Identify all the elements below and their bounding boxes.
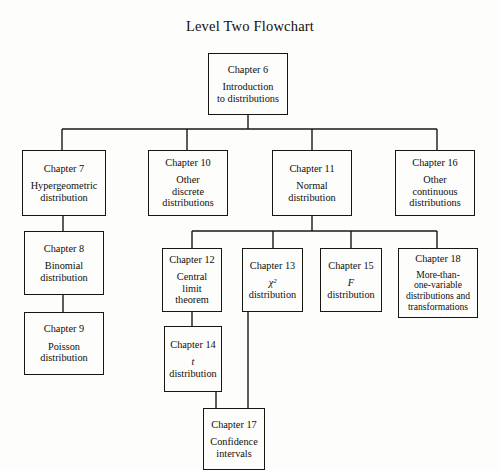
line: distributions — [409, 197, 461, 209]
node-chapter-7-description: Hypergeometric distribution — [31, 180, 98, 203]
line: Other — [162, 174, 214, 186]
line: distribution — [288, 192, 335, 204]
node-chapter-13-description: χ² distribution — [249, 277, 296, 300]
line: distributions — [162, 197, 214, 209]
chi-squared-symbol: χ² — [249, 277, 296, 289]
line: limit — [175, 283, 209, 295]
t-symbol: t — [169, 356, 216, 368]
node-chapter-14-description: t distribution — [169, 356, 216, 379]
node-chapter-10[interactable]: Chapter 10 Other discrete distributions — [148, 150, 228, 216]
line: Binomial — [40, 260, 87, 272]
node-chapter-10-description: Other discrete distributions — [162, 174, 214, 209]
line: Introduction — [217, 81, 279, 93]
node-chapter-18-chapter: Chapter 18 — [415, 253, 460, 265]
node-chapter-17[interactable]: Chapter 17 Confidence intervals — [203, 408, 265, 470]
line: distribution — [327, 289, 374, 301]
node-chapter-7-chapter: Chapter 7 — [44, 163, 84, 175]
line: theorem — [175, 294, 209, 306]
node-chapter-14[interactable]: Chapter 14 t distribution — [164, 326, 222, 392]
line: Normal — [288, 180, 335, 192]
node-chapter-9-description: Poisson distribution — [40, 341, 87, 364]
line: to distributions — [217, 93, 279, 105]
node-chapter-8-chapter: Chapter 8 — [44, 243, 84, 255]
node-chapter-9[interactable]: Chapter 9 Poisson distribution — [24, 312, 104, 375]
node-chapter-18[interactable]: Chapter 18 More-than- one-variable distr… — [398, 248, 478, 318]
node-chapter-6-description: Introduction to distributions — [217, 81, 279, 104]
line: distribution — [169, 368, 216, 380]
f-symbol: F — [327, 277, 374, 289]
node-chapter-7[interactable]: Chapter 7 Hypergeometric distribution — [22, 150, 106, 216]
node-chapter-14-chapter: Chapter 14 — [170, 339, 215, 351]
line: intervals — [210, 448, 257, 460]
node-chapter-16-chapter: Chapter 16 — [412, 157, 457, 169]
node-chapter-16-description: Other continuous distributions — [409, 174, 461, 209]
line: distribution — [31, 192, 98, 204]
node-chapter-16[interactable]: Chapter 16 Other continuous distribution… — [395, 150, 475, 216]
line: Other — [409, 174, 461, 186]
flowchart-canvas: Level Two Flowchart Chapter 6 Introducti… — [0, 0, 500, 470]
node-chapter-13[interactable]: Chapter 13 χ² distribution — [242, 248, 303, 312]
line: Confidence — [210, 436, 257, 448]
node-chapter-11-description: Normal distribution — [288, 180, 335, 203]
node-chapter-6[interactable]: Chapter 6 Introduction to distributions — [208, 53, 288, 115]
node-chapter-17-chapter: Chapter 17 — [211, 419, 256, 431]
line: Hypergeometric — [31, 180, 98, 192]
node-chapter-13-chapter: Chapter 13 — [250, 260, 295, 272]
node-chapter-10-chapter: Chapter 10 — [165, 157, 210, 169]
line: distribution — [249, 289, 296, 301]
page-title: Level Two Flowchart — [0, 18, 500, 35]
line: transformations — [406, 302, 470, 313]
line: distribution — [40, 352, 87, 364]
node-chapter-12[interactable]: Chapter 12 Central limit theorem — [162, 248, 222, 312]
node-chapter-8[interactable]: Chapter 8 Binomial distribution — [24, 231, 104, 295]
node-chapter-15-chapter: Chapter 15 — [328, 260, 373, 272]
node-chapter-9-chapter: Chapter 9 — [44, 323, 84, 335]
line: distribution — [40, 272, 87, 284]
line: continuous — [409, 186, 461, 198]
line: Poisson — [40, 341, 87, 353]
node-chapter-8-description: Binomial distribution — [40, 260, 87, 283]
node-chapter-15-description: F distribution — [327, 277, 374, 300]
line: Central — [175, 271, 209, 283]
node-chapter-12-description: Central limit theorem — [175, 271, 209, 306]
node-chapter-15[interactable]: Chapter 15 F distribution — [320, 248, 382, 312]
line: discrete — [162, 186, 214, 198]
node-chapter-12-chapter: Chapter 12 — [169, 254, 214, 266]
node-chapter-11[interactable]: Chapter 11 Normal distribution — [272, 150, 352, 216]
node-chapter-17-description: Confidence intervals — [210, 436, 257, 459]
node-chapter-11-chapter: Chapter 11 — [289, 163, 334, 175]
node-chapter-18-description: More-than- one-variable distributions an… — [406, 270, 470, 313]
node-chapter-6-chapter: Chapter 6 — [228, 64, 268, 76]
